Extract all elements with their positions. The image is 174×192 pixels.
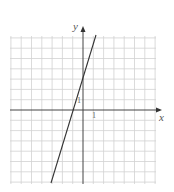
y-axis-arrow-icon (81, 26, 86, 32)
x-axis-label: x (159, 111, 164, 123)
coordinate-plane (0, 0, 174, 192)
line-graph (51, 35, 96, 183)
y-axis-label: y (73, 20, 78, 32)
y-tick-label: 1 (77, 96, 81, 105)
x-tick-label: 1 (92, 111, 96, 120)
